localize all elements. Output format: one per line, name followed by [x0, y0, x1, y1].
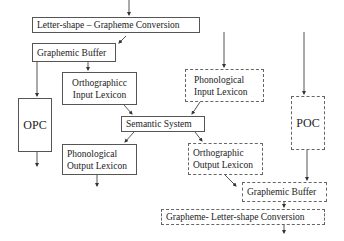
opc-box: OPC	[18, 98, 52, 152]
graphemic-buffer-input-box: Graphemic Buffer	[32, 43, 116, 62]
phonological-input-lexicon-box: Phonological Input Lexicon	[185, 69, 264, 102]
semantic-system-box: Semantic System	[121, 116, 205, 132]
label-line-1: Orthographicc	[67, 77, 132, 89]
grapheme-letter-shape-conversion-box: Grapheme- Letter-shape Conversion	[161, 209, 325, 225]
label-line-1: Orthographic	[193, 147, 258, 159]
label-line-2: Input Lexicon	[194, 86, 259, 98]
label: OPC	[23, 119, 46, 131]
label: Graphemic Buffer	[37, 48, 106, 58]
label-line-1: Phonological	[194, 74, 259, 86]
label-line-2: Output Lexicon	[193, 159, 258, 171]
graphemic-buffer-output-box: Graphemic Buffer	[242, 182, 327, 202]
orthographic-output-lexicon-box: Orthographic Output Lexicon	[188, 143, 263, 175]
phonological-output-lexicon-box: Phonological Output Lexicon	[62, 144, 137, 175]
label: Graphemic Buffer	[247, 187, 316, 197]
orthographic-input-lexicon-box: Orthographicc Input Lexicon	[62, 72, 137, 105]
poc-box: POC	[291, 96, 325, 150]
label: Grapheme- Letter-shape Conversion	[166, 212, 305, 222]
letter-shape-grapheme-conversion-box: Letter-shape – Grapheme Conversion	[32, 17, 200, 33]
label: Semantic System	[126, 119, 192, 129]
label: POC	[296, 117, 319, 129]
label-line-2: Output Lexicon	[67, 160, 132, 172]
label-line-2: Input Lexicon	[67, 89, 132, 101]
label-line-1: Phonological	[67, 148, 132, 160]
label: Letter-shape – Grapheme Conversion	[37, 20, 180, 30]
